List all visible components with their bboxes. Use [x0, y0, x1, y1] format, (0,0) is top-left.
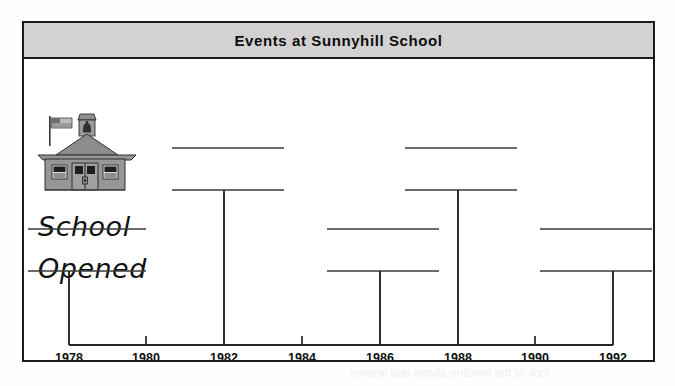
bleedthrough-ghost-text-bottom: look at the timeline above and answer [120, 366, 550, 384]
title-bar: Events at Sunnyhill School [24, 23, 653, 59]
axis-label-1986: 1986 [366, 351, 394, 360]
axis-label-1990: 1990 [521, 351, 549, 360]
axis-label-1992: 1992 [599, 351, 627, 360]
callout-lines-1978 [28, 229, 146, 271]
callout-lines-1982 [172, 148, 284, 190]
axis-label-1980: 1980 [132, 351, 160, 360]
axis-label-1988: 1988 [444, 351, 472, 360]
axis-label-1978: 1978 [55, 351, 83, 360]
timeline-graphic: 1978 1980 1982 1984 1986 1988 1990 1992 [24, 59, 653, 360]
plot-area: School Opened [24, 59, 653, 360]
figure-page: The Glendale Fire Depart look at the tim… [0, 0, 675, 386]
callout-lines-1988 [405, 148, 517, 190]
page-title: Events at Sunnyhill School [234, 32, 442, 49]
callout-lines-1992 [540, 229, 652, 271]
figure-frame: Events at Sunnyhill School [22, 21, 655, 362]
axis-label-1982: 1982 [210, 351, 238, 360]
callout-lines-1986 [327, 229, 439, 271]
axis-label-1984: 1984 [288, 351, 316, 360]
